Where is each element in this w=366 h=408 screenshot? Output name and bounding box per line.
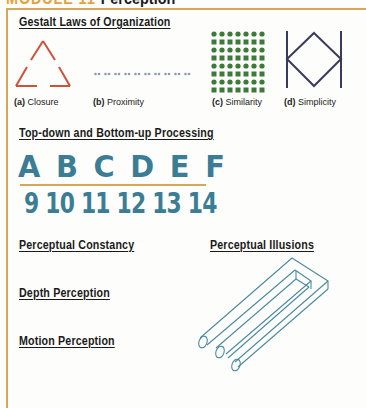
impossible-fork-illusion-icon <box>0 0 348 385</box>
